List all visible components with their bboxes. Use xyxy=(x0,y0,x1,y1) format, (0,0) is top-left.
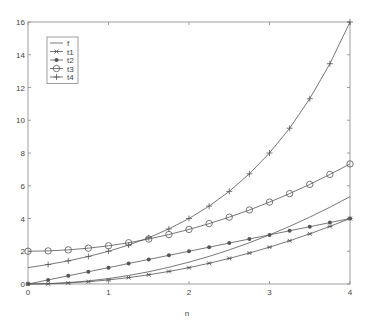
y-tick-label: 8 xyxy=(21,149,26,158)
dot-marker xyxy=(227,241,231,245)
dot-marker xyxy=(55,58,59,62)
dot-marker xyxy=(107,266,111,270)
x-tick-label: 3 xyxy=(267,288,272,297)
dot-marker xyxy=(127,262,131,266)
y-tick-label: 12 xyxy=(16,84,25,93)
dot-marker xyxy=(46,278,50,282)
y-tick-label: 0 xyxy=(21,280,26,289)
series-t2 xyxy=(26,217,352,287)
dot-marker xyxy=(268,233,272,237)
dot-marker xyxy=(147,257,151,261)
series-line xyxy=(28,197,350,284)
x-tick-label: 2 xyxy=(187,288,192,297)
y-tick-label: 10 xyxy=(16,116,25,125)
dot-marker xyxy=(288,229,292,233)
dot-marker xyxy=(86,270,90,274)
dot-marker xyxy=(167,253,171,257)
dot-marker xyxy=(247,237,251,241)
dot-marker xyxy=(308,225,312,229)
dot-marker xyxy=(187,249,191,253)
legend-label-t4: t4 xyxy=(67,73,74,82)
y-tick-label: 16 xyxy=(16,18,25,27)
series-f xyxy=(28,197,350,284)
series-t3 xyxy=(25,161,353,255)
x-tick-label: 0 xyxy=(26,288,31,297)
x-tick-label: 4 xyxy=(348,288,353,297)
y-tick-label: 6 xyxy=(21,182,26,191)
x-tick-label: 1 xyxy=(106,288,111,297)
legend: ft1t2t3t4 xyxy=(47,37,78,84)
dot-marker xyxy=(66,274,70,278)
dot-marker xyxy=(328,221,332,225)
y-tick-label: 4 xyxy=(21,215,26,224)
line-chart: 012340246810121416 ft1t2t3t4 n xyxy=(0,0,370,324)
series-line xyxy=(28,164,350,251)
dot-marker xyxy=(207,245,211,249)
y-tick-label: 14 xyxy=(16,51,25,60)
dot-marker xyxy=(348,217,352,221)
dot-marker xyxy=(26,282,30,286)
x-axis-label: n xyxy=(185,309,189,318)
